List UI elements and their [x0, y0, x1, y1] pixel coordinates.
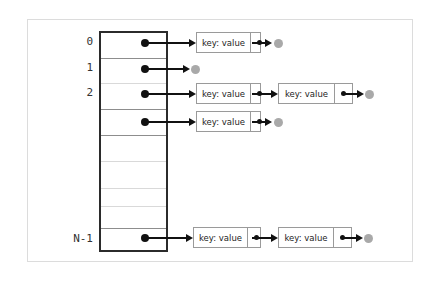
bucket-3-null-arrow-head	[265, 118, 272, 126]
bucket-n-1-internal-arrow-head	[271, 234, 278, 242]
bucket-2-null-terminator	[365, 90, 374, 99]
diagram-frame	[27, 19, 413, 262]
bucket-0-null-arrow-head	[265, 39, 272, 47]
bucket-index-label-2: 2	[55, 87, 93, 98]
bucket-1-arrow-head	[183, 65, 190, 73]
bucket-1-link-line	[145, 68, 187, 70]
node-key-value-text: key: value	[279, 228, 333, 247]
bucket-3-arrow-head	[189, 118, 196, 126]
bucket-2-link-line	[145, 93, 189, 95]
bucket-row-4[interactable]	[101, 136, 166, 162]
node-key-value-text: key: value	[197, 84, 250, 103]
node-key-value-text: key: value	[197, 112, 250, 131]
bucket-3-link-line	[145, 121, 189, 123]
bucket-3-null-terminator	[274, 118, 283, 127]
bucket-n-1-link-line	[145, 237, 187, 239]
bucket-array	[99, 31, 168, 252]
chain-node-n1-1[interactable]: key: value	[278, 227, 352, 248]
bucket-2-arrow-head	[189, 90, 196, 98]
bucket-index-label-0: 0	[55, 36, 93, 47]
node-key-value-text: key: value	[194, 228, 247, 247]
bucket-n-1-null-terminator	[364, 234, 373, 243]
bucket-row-3[interactable]	[101, 110, 166, 136]
node-key-value-text: key: value	[279, 84, 334, 103]
bucket-2-internal-arrow-head	[271, 90, 278, 98]
bucket-0-arrow-head	[189, 39, 196, 47]
bucket-row-6[interactable]	[101, 189, 166, 207]
diagram-canvas: 0 1 2 N-1	[0, 0, 440, 282]
bucket-row-1[interactable]	[101, 59, 166, 84]
bucket-index-label-n-1: N-1	[55, 233, 93, 244]
bucket-0-link-line	[145, 42, 189, 44]
chain-node-n1-0[interactable]: key: value	[193, 227, 261, 248]
node-key-value-text: key: value	[197, 33, 250, 52]
bucket-row-8[interactable]	[101, 229, 166, 254]
bucket-row-5[interactable]	[101, 162, 166, 189]
bucket-n-1-arrow-head	[186, 234, 193, 242]
bucket-1-null-terminator	[191, 65, 200, 74]
bucket-row-7[interactable]	[101, 207, 166, 229]
bucket-0-null-terminator	[274, 39, 283, 48]
bucket-index-label-1: 1	[55, 62, 93, 73]
bucket-row-0[interactable]	[101, 33, 166, 59]
bucket-row-2[interactable]	[101, 84, 166, 110]
bucket-n-1-null-arrow-head	[356, 234, 363, 242]
chain-node-2-1[interactable]: key: value	[278, 83, 353, 104]
bucket-2-null-arrow-head	[357, 90, 364, 98]
